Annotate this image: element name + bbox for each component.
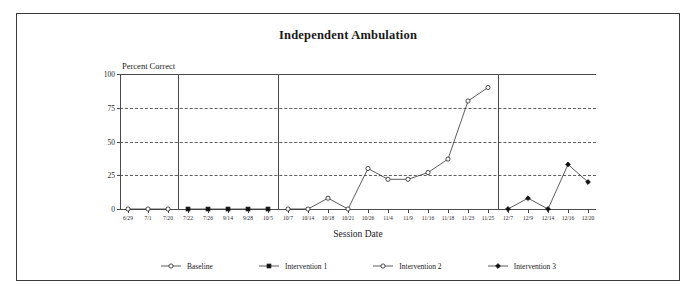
x-tick-mark [448,209,449,213]
x-tick-label: 12/9 [523,215,533,221]
x-tick-label: 10/7 [283,215,293,221]
data-point-marker [526,196,531,201]
x-tick-label: 12/14 [542,215,555,221]
x-tick-label: 10/21 [342,215,355,221]
x-tick-label: 10/5 [263,215,273,221]
x-tick-mark [588,209,589,213]
x-tick-mark [168,209,169,213]
series-line [508,164,588,209]
series-4 [506,162,591,211]
x-axis-title: Session Date [120,229,596,239]
legend-marker-icon [160,261,182,271]
x-tick-label: 7/22 [183,215,193,221]
x-tick-label: 11/9 [403,215,413,221]
x-tick-label: 7/20 [163,215,173,221]
figure-frame: Independent Ambulation Percent Correct 0… [16,13,680,281]
x-tick-mark [128,209,129,213]
x-tick-mark [488,209,489,213]
x-tick-label: 10/26 [362,215,375,221]
x-tick-label: 11/23 [462,215,475,221]
phase-divider-1 [178,74,179,210]
legend-label: Intervention 2 [399,262,441,271]
legend-marker-icon [487,261,509,271]
x-axis-line [120,209,596,210]
legend-marker-icon [258,261,280,271]
x-tick-mark [568,209,569,213]
data-point-marker [566,162,571,167]
gridline-50 [120,142,596,143]
legend-entry-4[interactable]: Intervention 3 [487,261,556,271]
data-point-marker [426,170,430,174]
x-tick-label: 11/25 [482,215,495,221]
x-tick-mark [428,209,429,213]
data-point-marker [386,177,390,181]
data-point-marker [466,99,470,103]
x-tick-mark [548,209,549,213]
x-tick-label: 9/28 [243,215,253,221]
legend-symbol-marker [381,264,385,268]
x-tick-label: 12/20 [582,215,595,221]
x-tick-mark [208,209,209,213]
legend-label: Intervention 1 [285,262,327,271]
x-tick-label: 11/4 [383,215,393,221]
x-tick-mark [368,209,369,213]
legend-marker-icon [372,261,394,271]
x-tick-mark [228,209,229,213]
x-tick-mark [268,209,269,213]
x-tick-mark [408,209,409,213]
x-tick-label: 7/1 [144,215,151,221]
y-tick-mark [117,142,121,143]
data-point-marker [486,85,490,89]
gridline-100 [120,74,596,75]
y-tick-label: 100 [104,70,115,79]
legend-entry-3[interactable]: Intervention 2 [372,261,441,271]
x-tick-label: 11/18 [442,215,455,221]
y-tick-mark [117,108,121,109]
legend-entry-1[interactable]: Baseline [160,261,213,271]
y-tick-mark [117,209,121,210]
x-tick-label: 12/7 [503,215,513,221]
x-tick-mark [528,209,529,213]
legend-symbol-marker [495,264,500,269]
x-tick-label: 11/16 [422,215,435,221]
y-tick-label: 25 [108,171,116,180]
data-point-marker [366,166,370,170]
plot-area: Percent Correct 0255075100 6/297/17/207/… [120,74,596,209]
legend-label: Intervention 3 [514,262,556,271]
y-tick-mark [117,175,121,176]
data-point-marker [446,157,450,161]
x-tick-mark [188,209,189,213]
y-tick-mark [117,74,121,75]
legend-symbol-marker [267,264,271,268]
chart-title: Independent Ambulation [17,28,679,43]
phase-divider-3 [498,74,499,210]
data-point-marker [406,177,410,181]
x-tick-label: 6/29 [123,215,133,221]
x-tick-label: 10/14 [302,215,315,221]
x-tick-label: 7/26 [203,215,213,221]
x-tick-label: 12/16 [562,215,575,221]
y-tick-label: 50 [108,137,116,146]
chart-legend: BaselineIntervention 1Intervention 2Inte… [120,261,596,271]
y-axis-title: Percent Correct [122,61,175,71]
legend-symbol-marker [169,264,173,268]
x-tick-mark [248,209,249,213]
y-tick-label: 0 [111,205,115,214]
phase-divider-2 [278,74,279,210]
legend-entry-2[interactable]: Intervention 1 [258,261,327,271]
data-point-marker [326,196,330,200]
x-tick-label: 10/18 [322,215,335,221]
series-3 [286,85,490,211]
legend-label: Baseline [187,262,213,271]
x-tick-mark [468,209,469,213]
gridline-75 [120,108,596,109]
x-tick-label: 9/14 [223,215,233,221]
y-tick-label: 75 [108,103,116,112]
x-tick-mark [148,209,149,213]
x-tick-mark [348,209,349,213]
x-tick-mark [328,209,329,213]
x-tick-mark [288,209,289,213]
x-tick-mark [308,209,309,213]
x-tick-mark [508,209,509,213]
data-point-marker [586,180,591,185]
